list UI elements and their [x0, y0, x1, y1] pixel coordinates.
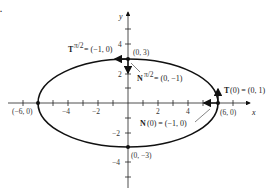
y-tick-label: −4 [112, 158, 120, 167]
x-tick-label: 2 [156, 107, 160, 116]
svg-text:N: N [137, 74, 143, 83]
svg-text:(0) = (0, 1): (0) = (0, 1) [230, 86, 266, 95]
svg-text:(0) = (−1, 0): (0) = (−1, 0) [147, 119, 187, 128]
y-tick-label: −2 [112, 129, 120, 138]
svg-text:= (0, −1): = (0, −1) [154, 74, 183, 83]
ellipse-diagram: . x y −4 −2 2 4 4 2 −2 −4 [0, 0, 273, 192]
y-tick-label: 4 [118, 40, 122, 49]
label-N-0: N (0) = (−1, 0) [140, 119, 187, 128]
leader-line-N-0 [195, 109, 210, 122]
x-tick-label: 4 [186, 107, 190, 116]
label-T-0: T (0) = (0, 1) [224, 86, 266, 95]
svg-text:π/2: π/2 [74, 41, 84, 50]
point-label-left: (−6, 0) [12, 107, 33, 116]
point-label-top: (0, 3) [133, 48, 150, 57]
x-tick-label: −2 [92, 107, 100, 116]
svg-text:N: N [140, 119, 146, 128]
leader-line-N-pi2 [131, 63, 140, 72]
label-N-pi2: N π/2 = (0, −1) [137, 70, 183, 83]
y-tick-label: 2 [118, 70, 122, 79]
point-label-right: (6, 0) [220, 108, 237, 117]
point-left [36, 101, 40, 105]
point-label-bottom: (0, −3) [131, 151, 152, 160]
point-bottom [126, 145, 130, 149]
svg-text:= (−1, 0): = (−1, 0) [84, 45, 113, 54]
problem-marker: . [0, 5, 2, 14]
label-T-pi2: T π/2 = (−1, 0) [68, 41, 113, 54]
x-axis-label: x [251, 108, 256, 117]
svg-text:π/2: π/2 [144, 70, 154, 79]
x-tick-label: −4 [62, 107, 70, 116]
y-axis-label: y [118, 12, 123, 21]
